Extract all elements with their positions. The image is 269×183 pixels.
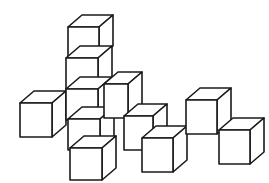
cube <box>219 118 264 164</box>
cube <box>20 91 66 137</box>
cube-figure-container <box>0 0 269 183</box>
cube-front-face <box>142 138 173 172</box>
cube-front-face <box>219 130 250 164</box>
cube <box>142 126 187 172</box>
cube-front-face <box>20 103 52 137</box>
cube-front-face <box>70 148 102 180</box>
cube-front-face <box>186 100 217 134</box>
cube-front-face <box>104 84 128 118</box>
cube-drawing-canvas <box>0 0 269 183</box>
cube <box>70 136 116 180</box>
